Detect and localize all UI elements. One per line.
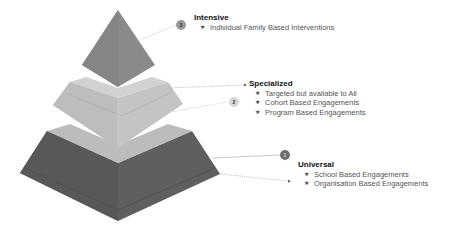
list-item: ★ Program Based Engagements	[249, 108, 365, 118]
connector-specialized-arrow	[168, 85, 244, 88]
connector-universal	[212, 155, 280, 158]
star-icon: ★	[298, 170, 314, 180]
badge-universal: 1	[280, 150, 290, 160]
label-universal: Universal ★ School Based Engagements ★ O…	[298, 160, 428, 189]
tier-title: Universal	[298, 160, 428, 170]
connector-intensive	[140, 25, 176, 40]
connector-universal-arrow	[220, 174, 288, 181]
label-specialized: Specialized ★ Targeted but available to …	[249, 79, 365, 117]
arrowhead-icon	[244, 84, 247, 87]
list-item: ★ Targeted but available to All	[249, 89, 365, 99]
tier-title: Intensive	[194, 13, 334, 23]
star-icon: ★	[249, 98, 265, 108]
tier-title: Specialized	[249, 79, 365, 89]
pyramid-diagram	[0, 0, 453, 229]
label-intensive: Intensive ★ Individual Family Based Inte…	[194, 13, 334, 32]
badge-intensive: 3	[176, 20, 186, 30]
tier-intensive-shape	[82, 10, 155, 87]
star-icon: ★	[249, 89, 265, 99]
arrowhead-icon	[288, 180, 291, 183]
list-item: ★ Cohort Based Engagements	[249, 98, 365, 108]
list-item: ★ Organisation Based Engagements	[298, 179, 428, 189]
star-icon: ★	[249, 108, 265, 118]
star-icon: ★	[194, 23, 210, 33]
list-item: ★ Individual Family Based Interventions	[194, 23, 334, 33]
badge-specialized: 2	[229, 97, 239, 107]
list-item: ★ School Based Engagements	[298, 170, 428, 180]
star-icon: ★	[298, 179, 314, 189]
